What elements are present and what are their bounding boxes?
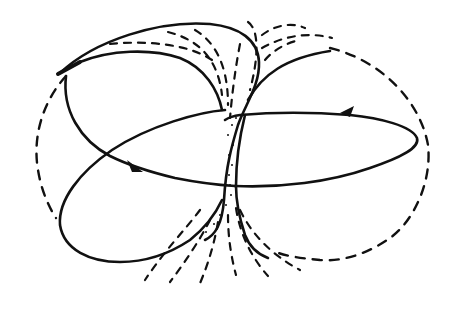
lower-fan-lines bbox=[145, 208, 300, 288]
upper-right-curve bbox=[248, 51, 330, 100]
arrow-right-down-icon bbox=[127, 160, 143, 172]
orbit-diagram bbox=[0, 0, 452, 309]
outer-dashed-boundary-left bbox=[36, 76, 66, 218]
inner-upper-curve bbox=[80, 52, 222, 110]
right-lobe-curve bbox=[225, 113, 417, 187]
upper-arc-curve bbox=[60, 23, 259, 240]
